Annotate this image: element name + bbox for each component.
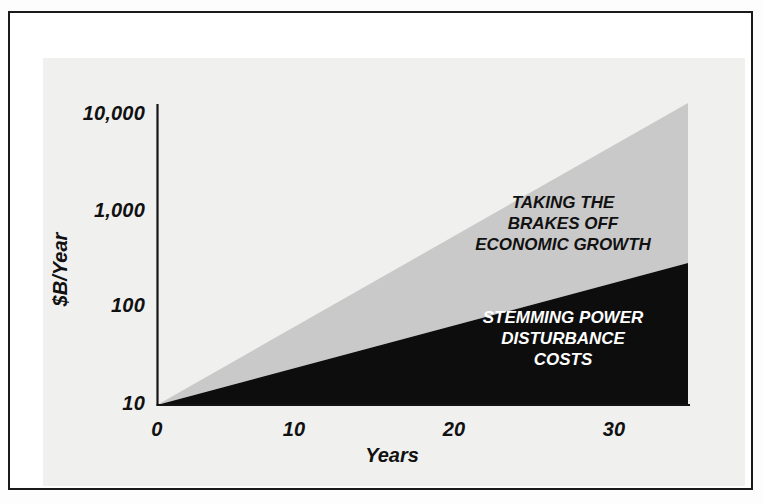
x-tick-label-30: 30	[588, 418, 640, 441]
annotation-power-disturbance-line-2: DISTURBANCE	[438, 328, 688, 349]
x-axis-title: Years	[337, 444, 447, 467]
y-tick-label-10000: 10,000	[30, 102, 145, 125]
x-tick-label-10: 10	[268, 418, 320, 441]
annotation-power-disturbance-line-3: COSTS	[438, 349, 688, 370]
annotation-economic-growth: TAKING THE BRAKES OFF ECONOMIC GROWTH	[438, 192, 688, 255]
scanned-page: 10,000 1,000 100 10 $B/Year 0 10 20 30 Y…	[0, 0, 763, 504]
annotation-economic-growth-line-2: BRAKES OFF	[438, 213, 688, 234]
y-tick-label-100: 100	[30, 294, 145, 317]
annotation-economic-growth-line-3: ECONOMIC GROWTH	[438, 234, 688, 255]
x-tick-label-20: 20	[428, 418, 480, 441]
x-tick-label-0: 0	[131, 418, 183, 441]
annotation-power-disturbance: STEMMING POWER DISTURBANCE COSTS	[438, 307, 688, 370]
y-axis-title: $B/Year	[49, 200, 72, 340]
annotation-power-disturbance-line-1: STEMMING POWER	[438, 307, 688, 328]
annotation-economic-growth-line-1: TAKING THE	[438, 192, 688, 213]
y-tick-label-1000: 1,000	[30, 199, 145, 222]
y-tick-label-10: 10	[30, 392, 145, 415]
